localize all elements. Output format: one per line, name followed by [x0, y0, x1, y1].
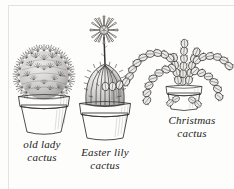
old-lady-body [12, 44, 77, 101]
easter-lily-flower [90, 16, 118, 44]
pot-old-lady [19, 95, 70, 135]
plant-old-lady-cactus [12, 44, 77, 135]
label-easter-lily-cactus: Easter lily cactus [62, 146, 148, 171]
plant-easter-lily-cactus [80, 16, 131, 140]
label-christmas-cactus: Christmas cactus [150, 114, 234, 139]
pot-easter-lily [80, 102, 131, 141]
christmas-branch-lower-right [189, 65, 224, 102]
